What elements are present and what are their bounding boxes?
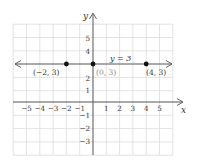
y-tick: 2	[85, 74, 90, 83]
x-tick: 3	[131, 104, 136, 113]
x-tick: 1	[104, 104, 109, 113]
point-label: (0, 3)	[96, 68, 116, 77]
x-tick: −4	[34, 104, 45, 113]
y-tick: −2	[79, 124, 90, 133]
coordinate-plane: x y −5 −4 −3 −2 −1 1 2 3 4 5 5 4 2 1 −1 …	[0, 0, 197, 162]
point-0-3	[91, 62, 96, 67]
x-axis-label: x	[181, 105, 186, 115]
point-label: (4, 3)	[146, 68, 166, 77]
x-tick: 2	[117, 104, 122, 113]
y-axis-label: y	[82, 11, 89, 21]
y-tick: −3	[79, 137, 90, 146]
x-tick: −2	[61, 104, 72, 113]
point-label: (−2, 3)	[33, 68, 60, 77]
point-4-3	[144, 62, 149, 67]
x-tick: −5	[21, 104, 32, 113]
x-tick: −3	[48, 104, 59, 113]
x-tick: 4	[144, 104, 149, 113]
y-tick: −1	[79, 111, 90, 120]
point-neg2-3	[64, 62, 69, 67]
y-tick: 5	[85, 34, 90, 43]
y-axis	[90, 13, 97, 155]
x-tick-labels: −5 −4 −3 −2 −1 1 2 3 4 5	[21, 104, 162, 113]
y-tick: 1	[85, 86, 90, 95]
y-tick: 4	[85, 47, 90, 56]
x-tick: 5	[157, 104, 162, 113]
line-equation-label: y = 3	[109, 54, 131, 63]
